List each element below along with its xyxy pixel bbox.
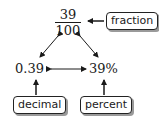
percent-label: percent: [80, 96, 132, 114]
fraction-denominator: 100: [55, 24, 81, 37]
arrow-fraction-percent: [80, 36, 98, 57]
fraction-value: 39 100: [55, 8, 81, 37]
fraction-label: fraction: [106, 12, 158, 30]
arrow-fraction-decimal: [40, 36, 58, 57]
decimal-value: 0.39: [15, 61, 44, 76]
percent-value: 39%: [89, 61, 118, 76]
decimal-label: decimal: [13, 96, 66, 114]
fraction-numerator: 39: [55, 8, 81, 21]
